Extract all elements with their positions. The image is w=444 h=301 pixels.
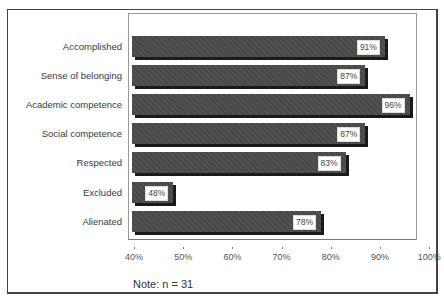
category-label: Accomplished	[63, 41, 122, 52]
bar: 83%	[132, 152, 346, 173]
value-label: 48%	[145, 186, 168, 201]
value-label: 87%	[337, 127, 360, 142]
value-label: 91%	[357, 40, 380, 55]
x-tick-label: 50%	[174, 252, 192, 262]
x-tick-label: 70%	[273, 252, 291, 262]
x-tick-mark	[429, 247, 430, 249]
bar: 48%	[132, 182, 173, 203]
value-label: 83%	[318, 156, 341, 171]
value-label: 87%	[337, 69, 360, 84]
x-tick-mark	[134, 247, 135, 249]
x-tick-label: 100%	[418, 252, 441, 262]
bar: 87%	[132, 65, 365, 86]
bar: 87%	[132, 123, 365, 144]
category-label: Alienated	[82, 216, 122, 227]
bar-fill	[132, 94, 410, 115]
x-tick-mark	[331, 247, 332, 249]
x-tick-mark	[380, 247, 381, 249]
x-tick-label: 90%	[371, 252, 389, 262]
x-tick-mark	[232, 247, 233, 249]
bar-fill	[132, 36, 385, 57]
x-tick-label: 40%	[125, 252, 143, 262]
x-tick-label: 80%	[322, 252, 340, 262]
value-label: 96%	[382, 98, 405, 113]
bar: 91%	[132, 36, 385, 57]
bar: 78%	[132, 211, 321, 232]
x-tick-mark	[282, 247, 283, 249]
bar-fill	[132, 65, 365, 86]
category-label: Excluded	[83, 187, 122, 198]
x-tick-label: 60%	[223, 252, 241, 262]
category-label: Social competence	[42, 128, 122, 139]
x-tick-mark	[183, 247, 184, 249]
category-label: Sense of belonging	[41, 70, 122, 81]
bar-fill	[132, 152, 346, 173]
sample-size-note: Note: n = 31	[133, 278, 193, 290]
bar: 96%	[132, 94, 410, 115]
bar-fill	[132, 123, 365, 144]
value-label: 78%	[293, 215, 316, 230]
category-label: Respected	[77, 157, 122, 168]
category-label: Academic competence	[26, 99, 122, 110]
